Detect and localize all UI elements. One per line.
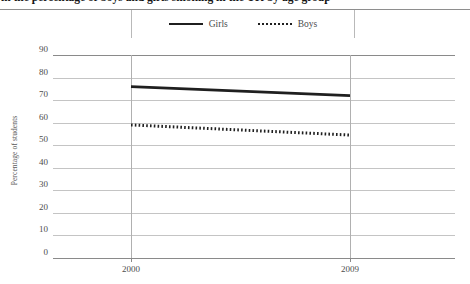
chart-plot-area: Percentage of students 90807060504030201… [0, 40, 470, 284]
series-line-boys [131, 125, 350, 135]
chart-legend: Girls Boys [131, 10, 355, 38]
dotted-line-icon [258, 23, 292, 25]
legend-label-girls: Girls [209, 19, 228, 29]
series-layer [0, 40, 470, 284]
legend-item-girls: Girls [169, 19, 228, 29]
solid-line-icon [169, 23, 203, 25]
page-heading-text: in the percentage of boys and girls smok… [1, 0, 469, 4]
legend-item-boys: Boys [258, 19, 318, 29]
page-heading-clipped: in the percentage of boys and girls smok… [0, 0, 470, 9]
legend-label-boys: Boys [298, 19, 318, 29]
series-line-girls [131, 87, 350, 96]
